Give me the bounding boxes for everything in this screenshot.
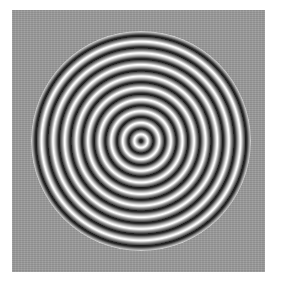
pattern-panel [12, 10, 265, 272]
concentric-rings [31, 31, 251, 251]
